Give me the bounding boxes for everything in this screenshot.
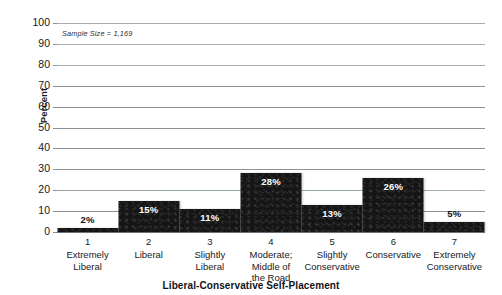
bar-value-label: 5%: [447, 208, 461, 219]
bar[interactable]: 26%: [363, 178, 424, 232]
x-axis-title: Liberal-Conservative Self-Placement: [0, 280, 502, 291]
category-name: Moderate; Middle of the Road: [240, 249, 301, 284]
bar[interactable]: [57, 228, 118, 232]
bar-slot: 2%: [57, 23, 118, 232]
bar-slot: 5%: [424, 23, 485, 232]
bar-value-label: 28%: [240, 176, 301, 187]
x-tick-label: 1Extremely Liberal: [57, 236, 118, 272]
bar-chart-figure: Percent 1009080706050403020100 Sample Si…: [0, 0, 502, 295]
bar-slot: 28%: [240, 23, 301, 232]
y-tick-label: 40: [16, 141, 57, 153]
category-number: 2: [118, 236, 179, 248]
x-axis-category-labels: 1Extremely Liberal2Liberal3Slightly Libe…: [57, 236, 485, 282]
bar-slot: 11%: [179, 23, 240, 232]
bar-value-label: 15%: [118, 204, 179, 215]
bar[interactable]: 15%: [118, 201, 179, 232]
bar-slot: 13%: [302, 23, 363, 232]
category-number: 6: [363, 236, 424, 248]
y-tick-label: 80: [16, 58, 57, 70]
bar[interactable]: 11%: [179, 209, 240, 232]
plot-area: 1009080706050403020100 Sample Size = 1,1…: [57, 23, 485, 232]
bar-series: 2%15%11%28%13%26%5%: [57, 23, 485, 232]
x-tick-label: 4Moderate; Middle of the Road: [240, 236, 301, 284]
y-tick-label: 50: [16, 121, 57, 133]
bar[interactable]: 28%: [240, 173, 301, 232]
bar-value-label: 26%: [363, 181, 424, 192]
y-tick-label: 10: [16, 204, 57, 216]
category-name: Extremely Conservative: [424, 249, 485, 272]
y-tick-label: 30: [16, 162, 57, 174]
gridline: [57, 232, 485, 233]
category-number: 3: [179, 236, 240, 248]
category-number: 5: [302, 236, 363, 248]
bar-value-label: 13%: [302, 208, 363, 219]
category-name: Conservative: [363, 249, 424, 261]
bar[interactable]: [424, 222, 485, 232]
bar-slot: 26%: [363, 23, 424, 232]
x-tick-label: 5Slightly Conservative: [302, 236, 363, 272]
y-tick-label: 20: [16, 183, 57, 195]
bar-value-label: 2%: [80, 214, 94, 225]
category-name: Extremely Liberal: [57, 249, 118, 272]
x-tick-label: 7Extremely Conservative: [424, 236, 485, 272]
category-number: 4: [240, 236, 301, 248]
category-number: 1: [57, 236, 118, 248]
y-tick-label: 60: [16, 100, 57, 112]
y-tick-label: 100: [16, 16, 57, 28]
bar[interactable]: 13%: [302, 205, 363, 232]
bar-value-label: 11%: [179, 212, 240, 223]
x-tick-label: 3Slightly Liberal: [179, 236, 240, 272]
category-name: Slightly Liberal: [179, 249, 240, 272]
x-tick-label: 6Conservative: [363, 236, 424, 261]
y-tick-label: 0: [16, 225, 57, 237]
x-tick-label: 2Liberal: [118, 236, 179, 261]
category-number: 7: [424, 236, 485, 248]
bar-slot: 15%: [118, 23, 179, 232]
y-tick-label: 90: [16, 37, 57, 49]
y-tick-label: 70: [16, 79, 57, 91]
category-name: Liberal: [118, 249, 179, 261]
category-name: Slightly Conservative: [302, 249, 363, 272]
